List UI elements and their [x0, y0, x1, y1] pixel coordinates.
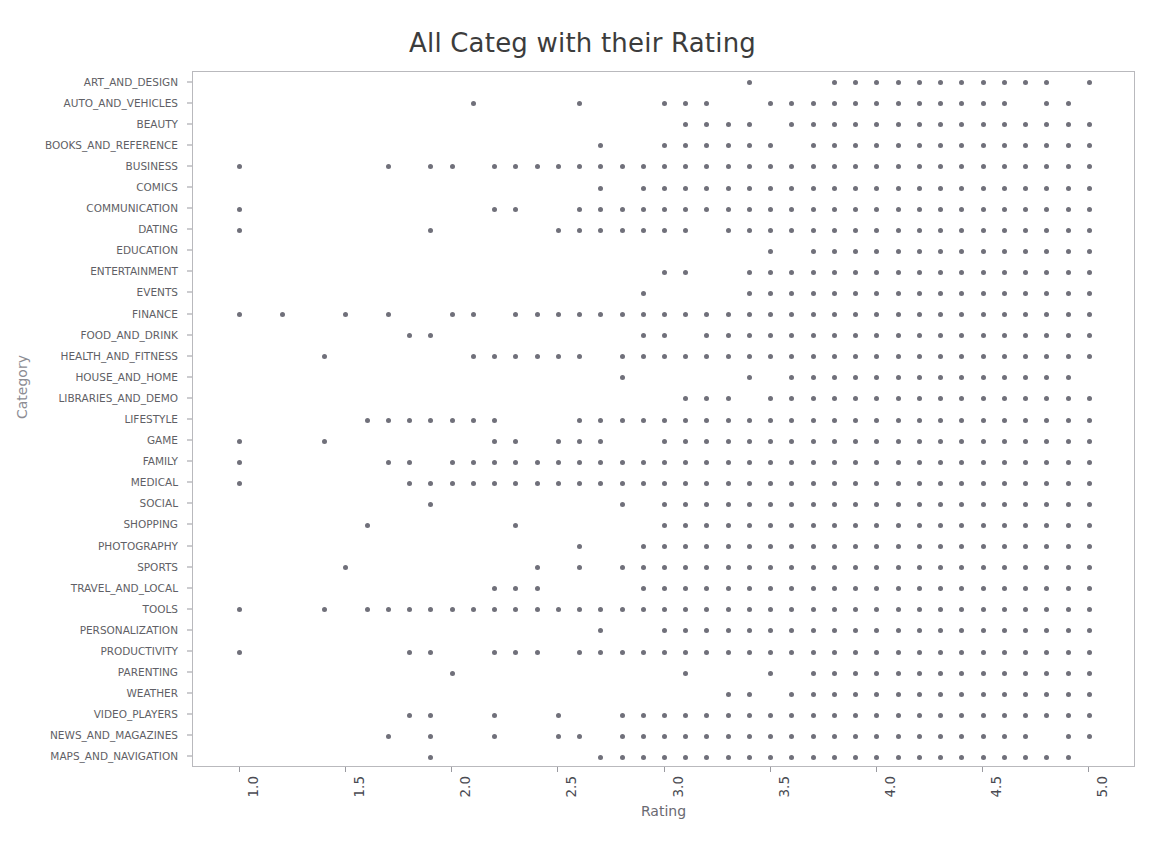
scatter-point — [768, 354, 773, 359]
scatter-point — [832, 375, 837, 380]
scatter-point — [704, 481, 709, 486]
scatter-point — [704, 650, 709, 655]
scatter-point — [832, 101, 837, 106]
scatter-point — [938, 101, 943, 106]
scatter-point — [874, 186, 879, 191]
scatter-point — [492, 586, 497, 591]
scatter-point — [811, 207, 816, 212]
scatter-point — [853, 207, 858, 212]
scatter-point — [1002, 460, 1007, 465]
scatter-point — [641, 333, 646, 338]
scatter-point — [598, 418, 603, 423]
scatter-point — [322, 607, 327, 612]
scatter-point — [768, 713, 773, 718]
x-axis-tick-mark — [1088, 767, 1089, 772]
scatter-point — [959, 460, 964, 465]
scatter-point — [1087, 692, 1092, 697]
scatter-point — [811, 122, 816, 127]
scatter-point — [683, 460, 688, 465]
scatter-point — [917, 396, 922, 401]
scatter-point — [747, 544, 752, 549]
scatter-point — [641, 460, 646, 465]
scatter-point — [747, 228, 752, 233]
scatter-point — [1044, 755, 1049, 760]
scatter-point — [768, 755, 773, 760]
scatter-point — [768, 228, 773, 233]
scatter-point — [981, 481, 986, 486]
scatter-point — [492, 481, 497, 486]
scatter-point — [789, 502, 794, 507]
scatter-point — [683, 628, 688, 633]
scatter-point — [938, 186, 943, 191]
scatter-point — [662, 650, 667, 655]
scatter-point — [1023, 80, 1028, 85]
scatter-point — [535, 481, 540, 486]
scatter-point — [789, 354, 794, 359]
scatter-point — [513, 586, 518, 591]
scatter-point — [896, 607, 901, 612]
scatter-point — [726, 628, 731, 633]
scatter-point — [641, 544, 646, 549]
y-axis-tick-label: TOOLS — [143, 603, 178, 615]
scatter-point — [938, 523, 943, 528]
scatter-point — [853, 228, 858, 233]
scatter-point — [811, 502, 816, 507]
scatter-point — [874, 207, 879, 212]
scatter-point — [428, 502, 433, 507]
scatter-point — [1066, 291, 1071, 296]
scatter-point — [1044, 207, 1049, 212]
scatter-point — [513, 354, 518, 359]
scatter-point — [620, 607, 625, 612]
scatter-point — [1002, 565, 1007, 570]
scatter-point — [641, 312, 646, 317]
scatter-point — [981, 354, 986, 359]
scatter-point — [683, 565, 688, 570]
scatter-point — [1066, 755, 1071, 760]
scatter-point — [938, 354, 943, 359]
scatter-point — [726, 692, 731, 697]
scatter-point — [853, 143, 858, 148]
scatter-point — [874, 312, 879, 317]
scatter-point — [1044, 291, 1049, 296]
scatter-point — [981, 207, 986, 212]
scatter-point — [789, 565, 794, 570]
scatter-point — [747, 692, 752, 697]
scatter-point — [1066, 628, 1071, 633]
scatter-point — [1066, 207, 1071, 212]
scatter-point — [768, 101, 773, 106]
scatter-point — [1002, 143, 1007, 148]
scatter-point — [981, 671, 986, 676]
scatter-point — [407, 607, 412, 612]
scatter-point — [598, 186, 603, 191]
scatter-point — [620, 650, 625, 655]
scatter-point — [683, 671, 688, 676]
scatter-point — [577, 481, 582, 486]
plot-area — [192, 71, 1135, 767]
scatter-point — [450, 671, 455, 676]
y-axis-tick-label: WEATHER — [126, 687, 178, 699]
scatter-point — [1002, 396, 1007, 401]
x-axis-tick-mark — [664, 767, 665, 772]
scatter-point — [981, 270, 986, 275]
scatter-point — [1087, 607, 1092, 612]
scatter-point — [811, 650, 816, 655]
scatter-point — [322, 354, 327, 359]
scatter-point — [853, 164, 858, 169]
scatter-point — [1044, 607, 1049, 612]
scatter-point — [513, 481, 518, 486]
scatter-point — [853, 460, 858, 465]
scatter-point — [365, 523, 370, 528]
scatter-point — [726, 544, 731, 549]
scatter-point — [874, 650, 879, 655]
scatter-point — [535, 586, 540, 591]
scatter-point — [981, 312, 986, 317]
scatter-point — [683, 418, 688, 423]
scatter-point — [938, 544, 943, 549]
scatter-point — [1087, 713, 1092, 718]
scatter-point — [1087, 671, 1092, 676]
scatter-point — [1023, 396, 1028, 401]
scatter-point — [620, 312, 625, 317]
scatter-point — [662, 755, 667, 760]
scatter-point — [1002, 523, 1007, 528]
scatter-point — [1044, 439, 1049, 444]
